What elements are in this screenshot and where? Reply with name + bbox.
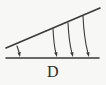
arrow-3-shaft (68, 23, 72, 52)
arrow-1 (17, 46, 21, 57)
arrow-1-head (17, 52, 20, 57)
figure-diagram-d: D (0, 0, 106, 85)
arrow-4-head (86, 52, 89, 57)
arrow-4 (83, 16, 89, 57)
arrow-1-shaft (17, 46, 19, 52)
arrow-3 (68, 23, 73, 57)
figure-label-d: D (0, 63, 106, 81)
arrow-3-head (70, 52, 73, 57)
arrow-2-head (54, 52, 57, 57)
arrow-4-shaft (83, 16, 88, 52)
arrow-2-shaft (53, 29, 56, 52)
arrow-2 (53, 29, 57, 57)
